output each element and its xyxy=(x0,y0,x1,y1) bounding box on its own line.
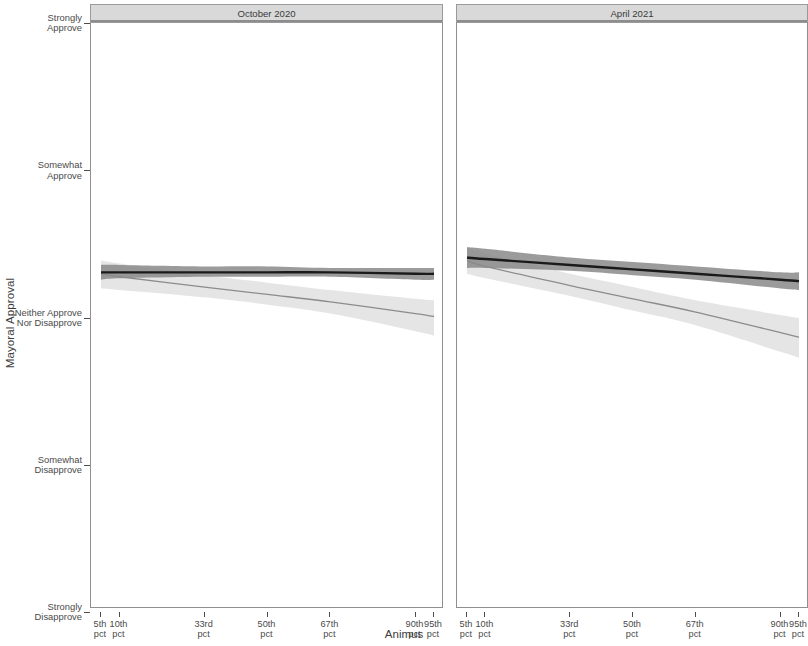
x-tick-mark xyxy=(415,612,416,617)
plot-area xyxy=(456,23,808,608)
x-tick-mark xyxy=(798,612,799,617)
x-tick-mark xyxy=(119,612,120,617)
chart-figure: Mayoral Approval StronglyApproveSomewhat… xyxy=(0,0,808,646)
y-tick-label: StronglyApprove xyxy=(6,13,82,34)
x-tick-mark xyxy=(484,612,485,617)
series-canvas xyxy=(457,23,807,608)
x-tick-mark xyxy=(204,612,205,617)
y-tick-label: SomewhatDisapprove xyxy=(6,454,82,475)
x-tick-mark xyxy=(329,612,330,617)
plot-area xyxy=(90,23,443,608)
y-tick-label-line2: Disapprove xyxy=(6,465,82,475)
x-tick-mark xyxy=(433,612,434,617)
panel-strip-label: October 2020 xyxy=(90,4,443,23)
facet-panel: October 20205thpct10thpct33rdpct50thpct6… xyxy=(90,4,443,608)
y-tick-label-line2: Disapprove xyxy=(6,612,82,622)
y-tick-label-line2: Nor Disapprove xyxy=(6,318,82,328)
x-tick-mark xyxy=(780,612,781,617)
y-tick-label: StronglyDisapprove xyxy=(6,602,82,623)
x-tick-mark xyxy=(466,612,467,617)
facet-panel: April 20215thpct10thpct33rdpct50thpct67t… xyxy=(456,4,808,608)
x-tick-mark xyxy=(267,612,268,617)
y-tick-label-line2: Approve xyxy=(6,23,82,33)
x-tick-mark xyxy=(695,612,696,617)
x-axis-title: Animus xyxy=(0,628,808,640)
x-tick-mark xyxy=(632,612,633,617)
series-canvas xyxy=(91,23,442,608)
y-tick-label-line2: Approve xyxy=(6,170,82,180)
panel-strip-label: April 2021 xyxy=(456,4,808,23)
y-tick-label: Neither ApproveNor Disapprove xyxy=(6,307,82,328)
y-tick-mark xyxy=(84,612,90,613)
x-tick-mark xyxy=(100,612,101,617)
x-tick-mark xyxy=(569,612,570,617)
y-tick-label: SomewhatApprove xyxy=(6,160,82,181)
